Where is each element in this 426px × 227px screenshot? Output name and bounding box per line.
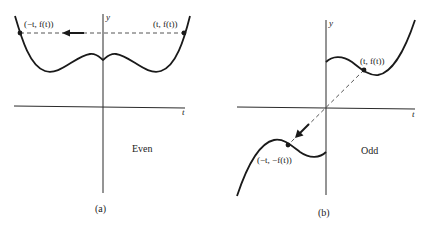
point-left-a <box>18 31 23 36</box>
t-axis-label-b: t <box>412 109 415 119</box>
arrow-left-icon <box>62 30 70 37</box>
point-lower-label-b: (−t, −f(t)) <box>257 155 292 165</box>
odd-curve-lower <box>237 140 326 196</box>
point-lower-b <box>286 143 291 148</box>
y-axis-label-b: y <box>328 18 333 28</box>
even-odd-diagram: y t (−t, f(t)) (t, f(t)) Even (a) y t (t… <box>0 0 426 227</box>
odd-curve-upper <box>326 20 415 75</box>
point-upper-b <box>362 68 367 73</box>
point-left-label-a: (−t, f(t)) <box>24 19 54 29</box>
panel-odd: y t (t, f(t)) (−t, −f(t)) Odd (b) <box>237 18 415 219</box>
point-upper-label-b: (t, f(t)) <box>360 56 385 66</box>
point-right-label-a: (t, f(t)) <box>153 19 178 29</box>
odd-label: Odd <box>361 145 378 156</box>
y-axis-label-a: y <box>105 12 110 22</box>
t-axis-a <box>14 106 185 108</box>
panel-even: y t (−t, f(t)) (t, f(t)) Even (a) <box>14 12 190 215</box>
caption-b: (b) <box>318 207 330 219</box>
caption-a: (a) <box>95 203 106 215</box>
even-label: Even <box>132 143 153 154</box>
t-axis-label-a: t <box>182 107 185 117</box>
point-right-a <box>182 31 187 36</box>
